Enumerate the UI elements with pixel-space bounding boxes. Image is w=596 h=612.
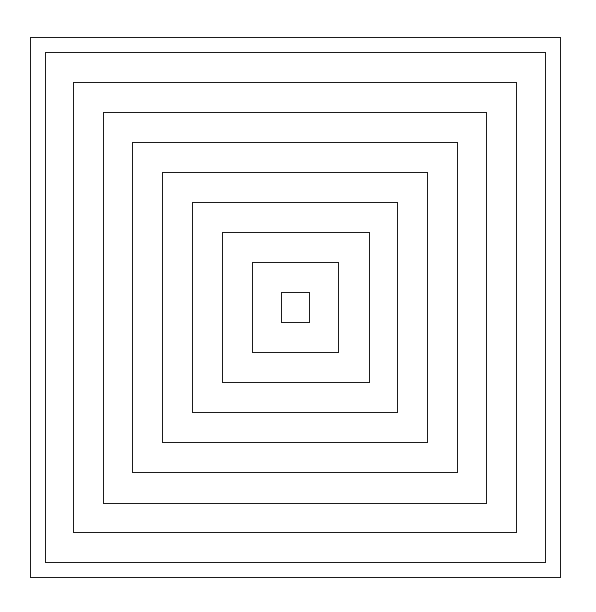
concentric-squares-diagram	[0, 0, 596, 612]
square-10	[281, 292, 310, 323]
